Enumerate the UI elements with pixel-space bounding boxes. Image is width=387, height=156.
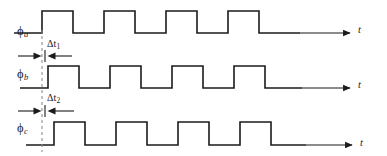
waveform-phi-c xyxy=(26,122,352,145)
timing-diagram-figure: ϕa ϕb ϕc t t t Δt1 Δt2 xyxy=(0,0,387,156)
delta-t1-subscript: 1 xyxy=(56,42,60,51)
delta-t2-left-arrowhead xyxy=(34,108,42,115)
phi-c-axis-label: t xyxy=(360,138,363,149)
delta-t2-right-arrowhead xyxy=(48,108,56,115)
phi-b-axis-label: t xyxy=(358,80,361,91)
delta-t2-dimension xyxy=(18,105,74,117)
phi-c-signal-path xyxy=(26,122,306,145)
delta-t1-symbol: Δt xyxy=(47,38,56,49)
delta-t1-right-arrowhead xyxy=(48,53,56,60)
phi-b-signal-path xyxy=(20,66,302,88)
delta-t1-label: Δt1 xyxy=(47,39,60,51)
timing-diagram-canvas xyxy=(0,0,387,156)
delta-t2-symbol: Δt xyxy=(47,92,56,103)
phi-c-symbol: ϕ xyxy=(17,121,24,135)
phi-a-subscript: a xyxy=(24,29,29,39)
phi-a-signal-path xyxy=(14,11,300,33)
phi-a-axis-label: t xyxy=(358,25,361,36)
phi-b-symbol: ϕ xyxy=(17,67,24,81)
waveform-phi-a xyxy=(14,11,350,33)
phi-b-label: ϕb xyxy=(17,68,28,82)
delta-t2-label: Δt2 xyxy=(47,93,60,105)
phi-a-symbol: ϕ xyxy=(17,24,24,38)
phi-c-subscript: c xyxy=(24,126,28,136)
phi-c-label: ϕc xyxy=(17,122,28,136)
delta-t1-left-arrowhead xyxy=(34,53,42,60)
delta-t1-dimension xyxy=(18,50,72,62)
waveform-phi-b xyxy=(20,66,350,88)
phi-a-label: ϕa xyxy=(17,25,28,39)
delta-t2-subscript: 2 xyxy=(56,96,60,105)
phi-b-subscript: b xyxy=(24,72,29,82)
